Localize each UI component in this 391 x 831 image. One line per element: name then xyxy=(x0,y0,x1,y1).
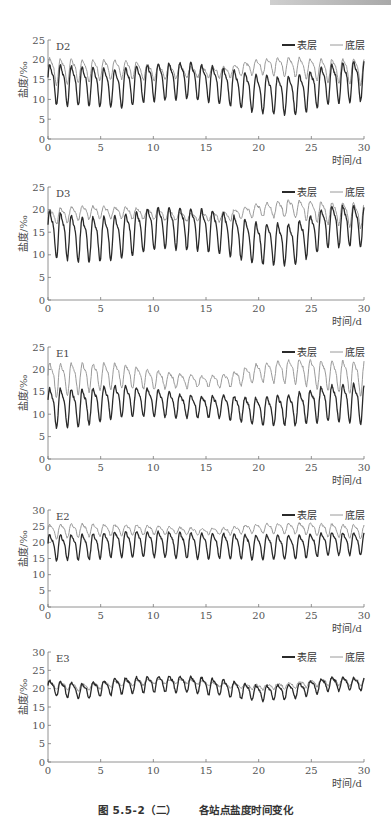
y-tick-label: 10 xyxy=(32,409,45,420)
y-tick-label: 30 xyxy=(32,505,45,516)
y-tick-label: 15 xyxy=(32,74,45,85)
x-tick-label: 25 xyxy=(305,142,318,153)
y-tick-label: 5 xyxy=(39,738,45,749)
y-tick-label: 25 xyxy=(32,35,45,46)
station-label: D2 xyxy=(56,41,70,52)
legend-bottom-label: 底层 xyxy=(345,651,365,663)
x-tick-label: 30 xyxy=(358,610,371,621)
chart-svg: 051015202530051015202530时间/d盐度/‰E2表层底层 xyxy=(0,500,391,635)
legend-surface-label: 表层 xyxy=(297,509,317,521)
chart-svg: 0510152025051015202530时间/d盐度/‰D3表层底层 xyxy=(0,178,391,328)
y-tick-label: 20 xyxy=(32,537,45,548)
series-surface-line xyxy=(48,383,364,428)
y-tick-label: 15 xyxy=(32,553,45,564)
legend-bottom-label: 底层 xyxy=(345,346,365,358)
y-tick-label: 15 xyxy=(32,386,45,397)
station-label: D3 xyxy=(56,188,70,199)
legend-bottom-label: 底层 xyxy=(345,39,365,51)
y-tick-label: 15 xyxy=(32,227,45,238)
legend-bottom-label: 底层 xyxy=(345,509,365,521)
x-tick-label: 0 xyxy=(45,462,51,473)
y-tick-label: 20 xyxy=(32,204,45,215)
page-header-bar xyxy=(270,0,391,5)
station-label: E3 xyxy=(56,653,70,664)
station-label: E2 xyxy=(56,511,70,522)
x-tick-label: 25 xyxy=(305,462,318,473)
x-tick-label: 30 xyxy=(358,142,371,153)
series-bottom-line xyxy=(48,360,364,398)
x-tick-label: 25 xyxy=(305,765,318,776)
x-tick-label: 5 xyxy=(97,462,103,473)
chart-svg: 0510152025051015202530时间/d盐度/‰D2表层底层 xyxy=(0,30,391,160)
x-tick-label: 30 xyxy=(358,303,371,314)
y-tick-label: 10 xyxy=(32,569,45,580)
x-tick-label: 10 xyxy=(147,142,160,153)
y-tick-label: 25 xyxy=(32,665,45,676)
chart-d3: 0510152025051015202530时间/d盐度/‰D3表层底层 xyxy=(0,178,391,328)
caption-number: 图 5.5-2（二） xyxy=(98,804,177,816)
x-tick-label: 15 xyxy=(200,142,213,153)
y-tick-label: 30 xyxy=(32,647,45,658)
y-tick-label: 20 xyxy=(32,364,45,375)
x-tick-label: 20 xyxy=(252,610,265,621)
y-axis-label: 盐度/‰ xyxy=(17,530,29,567)
y-tick-label: 25 xyxy=(32,182,45,193)
chart-svg: 0510152025051015202530时间/d盐度/‰E1表层底层 xyxy=(0,338,391,488)
chart-e3: 051015202530051015202530时间/d盐度/‰E3表层底层 xyxy=(0,642,391,792)
x-axis-label: 时间/d xyxy=(332,474,362,486)
x-tick-label: 5 xyxy=(97,765,103,776)
x-tick-label: 20 xyxy=(252,765,265,776)
x-tick-label: 15 xyxy=(200,610,213,621)
y-tick-label: 20 xyxy=(32,54,45,65)
y-axis-label: 盐度/‰ xyxy=(17,375,29,412)
x-tick-label: 5 xyxy=(97,303,103,314)
x-tick-label: 15 xyxy=(200,303,213,314)
x-tick-label: 30 xyxy=(358,462,371,473)
x-axis-label: 时间/d xyxy=(332,777,362,789)
station-label: E1 xyxy=(56,348,70,359)
x-tick-label: 0 xyxy=(45,610,51,621)
x-tick-label: 20 xyxy=(252,462,265,473)
x-tick-label: 10 xyxy=(147,765,160,776)
y-tick-label: 5 xyxy=(39,114,45,125)
legend-surface-label: 表层 xyxy=(297,651,317,663)
series-bottom-line xyxy=(48,523,364,540)
x-tick-label: 15 xyxy=(200,765,213,776)
x-tick-label: 5 xyxy=(97,610,103,621)
x-tick-label: 15 xyxy=(200,462,213,473)
x-tick-label: 20 xyxy=(252,142,265,153)
x-tick-label: 10 xyxy=(147,462,160,473)
y-tick-label: 20 xyxy=(32,683,45,694)
y-axis-label: 盐度/‰ xyxy=(17,679,29,716)
series-surface-line xyxy=(48,676,364,702)
y-axis-label: 盐度/‰ xyxy=(17,215,29,252)
x-tick-label: 0 xyxy=(45,765,51,776)
y-tick-label: 25 xyxy=(32,521,45,532)
y-tick-label: 5 xyxy=(39,431,45,442)
x-tick-label: 0 xyxy=(45,142,51,153)
y-tick-label: 25 xyxy=(32,342,45,353)
x-tick-label: 0 xyxy=(45,303,51,314)
legend-surface-label: 表层 xyxy=(297,346,317,358)
legend-surface-label: 表层 xyxy=(297,186,317,198)
legend-bottom-label: 底层 xyxy=(345,186,365,198)
figure-caption: 图 5.5-2（二）各站点盐度时间变化 xyxy=(0,802,391,817)
x-tick-label: 10 xyxy=(147,610,160,621)
series-surface-line xyxy=(48,61,364,115)
chart-e2: 051015202530051015202530时间/d盐度/‰E2表层底层 xyxy=(0,500,391,635)
y-tick-label: 5 xyxy=(39,585,45,596)
legend-surface-label: 表层 xyxy=(297,39,317,51)
x-tick-label: 25 xyxy=(305,303,318,314)
y-axis-label: 盐度/‰ xyxy=(17,61,29,98)
chart-e1: 0510152025051015202530时间/d盐度/‰E1表层底层 xyxy=(0,338,391,488)
y-tick-label: 5 xyxy=(39,272,45,283)
y-tick-label: 10 xyxy=(32,94,45,105)
x-axis-label: 时间/d xyxy=(332,622,362,634)
y-tick-label: 15 xyxy=(32,702,45,713)
x-tick-label: 20 xyxy=(252,303,265,314)
x-axis-label: 时间/d xyxy=(332,315,362,327)
series-surface-line xyxy=(48,205,364,266)
x-tick-label: 30 xyxy=(358,765,371,776)
y-tick-label: 10 xyxy=(32,249,45,260)
x-axis-label: 时间/d xyxy=(332,154,362,166)
